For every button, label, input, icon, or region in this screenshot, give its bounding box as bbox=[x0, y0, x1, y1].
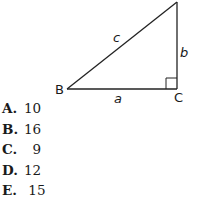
vertex-label-c: C bbox=[174, 91, 183, 104]
answer-choices: A.10 B.16 C. 9 D.12 E. 15 bbox=[2, 98, 45, 201]
choice-c[interactable]: C. 9 bbox=[2, 139, 45, 160]
choice-a[interactable]: A.10 bbox=[2, 98, 45, 119]
vertex-label-b: B bbox=[55, 83, 64, 96]
choice-b[interactable]: B.16 bbox=[2, 119, 45, 140]
side-label-c: c bbox=[113, 31, 120, 44]
side-label-a: a bbox=[114, 92, 122, 105]
right-angle-marker bbox=[166, 78, 177, 89]
choice-e[interactable]: E. 15 bbox=[2, 180, 45, 201]
side-label-b: b bbox=[180, 46, 188, 59]
right-triangle-figure: B C c b a bbox=[0, 0, 202, 100]
choice-d[interactable]: D.12 bbox=[2, 160, 45, 181]
triangle-diagram bbox=[0, 0, 202, 100]
